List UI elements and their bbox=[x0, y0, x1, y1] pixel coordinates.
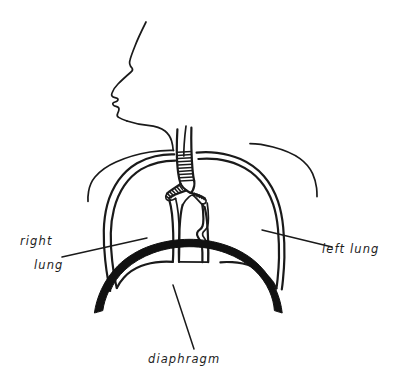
shoulder-right-line bbox=[250, 144, 317, 197]
left-lung-label: left lung bbox=[322, 242, 379, 256]
diaphragm-leader-line bbox=[173, 285, 194, 349]
anatomy-illustration: right lung left lung diaphragm bbox=[0, 0, 399, 384]
right-lung-medial-border bbox=[169, 200, 173, 262]
left-lung-inner-wall bbox=[198, 159, 279, 289]
bronchi-cartilage-rings bbox=[167, 186, 204, 200]
shoulder-left-line bbox=[88, 150, 174, 201]
respiratory-system-figure: right lung left lung diaphragm bbox=[0, 0, 399, 384]
diaphragm-band bbox=[94, 239, 282, 313]
trachea-wall-left bbox=[177, 129, 181, 184]
head-profile-outline bbox=[112, 22, 146, 121]
left-lung-outer-wall bbox=[197, 152, 285, 289]
right-lung-label-line2: lung bbox=[34, 258, 63, 272]
mediastinum-left-edge bbox=[179, 205, 183, 262]
diaphragm-label: diaphragm bbox=[148, 352, 220, 366]
right-lung-label-line1: right bbox=[20, 234, 53, 248]
jaw-to-neck-line bbox=[127, 121, 173, 151]
